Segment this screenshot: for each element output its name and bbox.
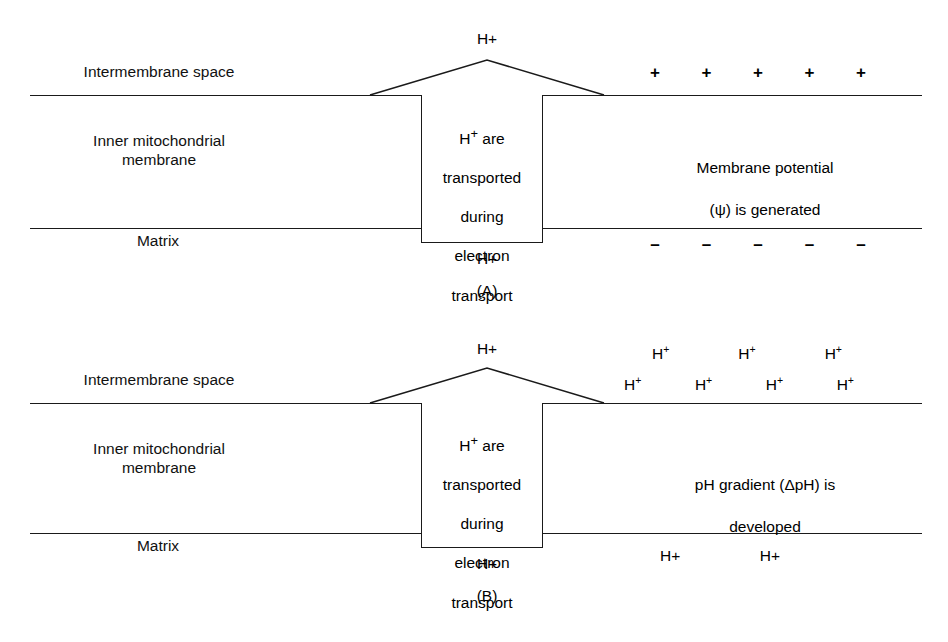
panel-b-matrix-proton-row: H+ H+ [660,547,780,565]
panel-b-caption: (B) [427,587,547,605]
panel-b: H+ H+ H+ H+ H+ H+ H+ H+ H+ are transport… [0,290,948,642]
panel-b-side-text: pH gradient (ΔpH) is developed [610,453,920,558]
panel-b-proton-bottom-label: H+ [427,555,547,573]
panel-b-label-intermembrane-space: Intermembrane space [44,370,274,389]
panel-b-inner-membrane-line-left [30,533,421,534]
charge-plus: + [854,64,868,81]
charge-minus: – [803,236,817,253]
panel-b-channel-line-1: H+ are [421,431,543,456]
panel-a-channel-line-2: transported [421,168,543,188]
panel-b-channel-line-3: during [421,514,543,534]
panel-a-inner-membrane-line-left [30,228,421,229]
panel-a-outer-membrane-line-right [543,95,922,96]
panel-b-side-text-line-2: developed [610,516,920,537]
charge-minus: – [751,236,765,253]
panel-a-label-inner-membrane: Inner mitochondrial membrane [44,131,274,169]
charge-minus: – [648,236,662,253]
panel-a-positive-charge-row: + + + + + [648,64,868,81]
panel-a-outer-membrane-line-left [30,95,421,96]
panel-a: H+ H+ are transported during electron tr… [0,0,948,321]
charge-minus: – [854,236,868,253]
panel-a-label-matrix: Matrix [78,231,238,250]
panel-b-outer-membrane-line-right [543,403,922,404]
charge-plus: + [700,64,714,81]
panel-a-channel-line-3: during [421,207,543,227]
panel-b-outer-membrane-line-left [30,403,421,404]
charge-plus: + [648,64,662,81]
panel-a-label-intermembrane-space: Intermembrane space [44,62,274,81]
proton-label: H+ [760,547,780,565]
panel-b-label-inner-membrane: Inner mitochondrial membrane [44,439,274,477]
panel-b-channel-line-2: transported [421,475,543,495]
charge-plus: + [803,64,817,81]
panel-a-side-text: Membrane potential (ψ) is generated [620,136,910,241]
panel-a-side-text-line-2: (ψ) is generated [620,199,910,220]
panel-b-label-matrix: Matrix [78,536,238,555]
proton-label: H+ [660,547,680,565]
panel-a-side-text-line-1: Membrane potential [620,157,910,178]
panel-a-proton-bottom-label: H+ [427,250,547,268]
panel-a-negative-charge-row: – – – – – [648,236,868,253]
charge-minus: – [700,236,714,253]
panel-a-channel-line-1: H+ are [421,124,543,149]
panel-b-side-text-line-1: pH gradient (ΔpH) is [610,474,920,495]
charge-plus: + [751,64,765,81]
